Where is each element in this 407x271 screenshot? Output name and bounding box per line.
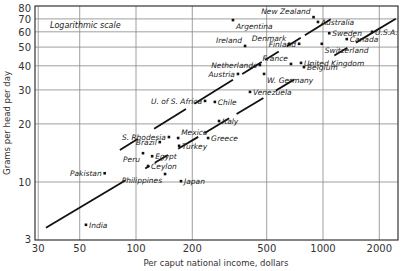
data-point <box>263 73 266 76</box>
data-point <box>244 45 247 48</box>
data-point <box>164 173 167 176</box>
point-label: Pakistan <box>70 169 102 178</box>
data-point <box>147 165 150 168</box>
x-axis-label: Per caput national income, dollars <box>143 258 289 268</box>
point-labels: New ZealandAustraliaArgentinaSwedenU.S.A… <box>70 7 398 230</box>
x-tick-label: 30 <box>32 243 45 254</box>
point-label: Belgium <box>307 63 338 72</box>
point-label: W. Germany <box>267 76 314 85</box>
data-point <box>317 21 320 24</box>
data-point <box>259 64 262 67</box>
y-tick-label: 60 <box>18 27 31 38</box>
point-label: Egypt <box>155 152 178 161</box>
data-point <box>237 73 240 76</box>
point-label: Japan <box>182 177 205 186</box>
y-tick-label: 3 <box>25 234 31 245</box>
point-label: Mexico <box>181 128 208 137</box>
trend-line-upper-segment <box>154 109 186 129</box>
y-tick-label: 10 <box>18 177 31 188</box>
data-point <box>290 63 293 66</box>
trend-line-lower-segment <box>46 180 126 228</box>
data-point <box>232 19 235 22</box>
point-label: Argentina <box>235 22 273 31</box>
point-label: Philippines <box>122 176 163 185</box>
point-label: Peru <box>123 155 140 164</box>
point-label: Greece <box>211 134 238 143</box>
data-point <box>168 136 171 139</box>
data-point <box>85 224 88 227</box>
data-point <box>371 31 374 34</box>
data-point <box>298 43 301 46</box>
data-point <box>142 152 145 155</box>
y-tick-label: 80 <box>18 3 31 14</box>
point-label: Ireland <box>216 36 242 45</box>
point-label: U.S.A. <box>375 28 398 37</box>
point-label: Ceylon <box>151 162 177 171</box>
point-label: India <box>89 221 108 230</box>
point-label: Turkey <box>182 142 208 151</box>
x-tick-label: 1000 <box>310 243 335 254</box>
point-label: Finland <box>269 40 297 49</box>
point-label: Chile <box>218 98 237 107</box>
y-tick-label: 20 <box>18 119 31 130</box>
point-label: Austria <box>207 70 235 79</box>
data-point <box>180 180 183 183</box>
data-point <box>328 32 331 35</box>
point-label: Switzerland <box>325 46 369 55</box>
scatter-chart: New ZealandAustraliaArgentinaSwedenU.S.A… <box>0 0 407 271</box>
x-tick-label: 2000 <box>367 243 392 254</box>
scale-annotation: Logarithmic scale <box>50 21 121 30</box>
data-point <box>178 145 181 148</box>
point-label: Netherlands <box>211 61 257 70</box>
data-point <box>103 172 106 175</box>
y-tick-label: 50 <box>18 42 31 53</box>
y-axis-label: Grams per head per day <box>2 71 12 175</box>
point-label: Canada <box>350 35 379 44</box>
data-point <box>151 155 154 158</box>
point-label: U. of S. Africa <box>151 97 202 106</box>
trend-line-lower-segment <box>237 98 264 114</box>
x-tick-label: 50 <box>73 243 86 254</box>
x-tick-label: 100 <box>126 243 145 254</box>
data-point <box>218 120 221 123</box>
data-point <box>300 62 303 65</box>
x-tick-label: 500 <box>257 243 276 254</box>
data-point <box>214 101 217 104</box>
y-tick-label: 40 <box>18 61 31 72</box>
y-tick-label: 70 <box>18 14 31 25</box>
point-label: Venezuela <box>253 88 292 97</box>
data-point <box>207 137 210 140</box>
data-point <box>249 91 252 94</box>
point-label: New Zealand <box>261 7 311 16</box>
point-label: Brazil <box>136 138 158 147</box>
y-tick-label: 30 <box>18 85 31 96</box>
data-point <box>204 100 207 103</box>
point-label: Italy <box>222 117 239 126</box>
data-point <box>312 16 315 19</box>
data-point <box>177 137 180 140</box>
point-label: Australia <box>320 18 355 27</box>
x-tick-label: 200 <box>183 243 202 254</box>
point-label: France <box>262 54 288 63</box>
data-point <box>320 43 323 46</box>
